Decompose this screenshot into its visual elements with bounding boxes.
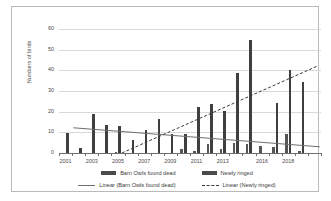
legend-label: Linear (Barn Owls found dead) xyxy=(99,182,175,188)
bar xyxy=(233,143,236,153)
bar xyxy=(132,140,135,153)
legend-item-newly-ringed[interactable]: Newly ringed xyxy=(202,170,253,176)
y-axis-tick-label: 50 xyxy=(28,47,54,52)
x-axis-tick-mark xyxy=(85,153,86,156)
x-axis-tick-mark xyxy=(125,153,126,156)
chart-frame: Numbers of birds 0102030405060 200120032… xyxy=(11,6,319,192)
x-axis-tick-label: 2011 xyxy=(191,158,203,164)
gridline xyxy=(59,29,321,30)
bar xyxy=(259,146,262,153)
x-axis-tick-label: 2013 xyxy=(217,158,229,164)
x-axis-tick-mark xyxy=(138,153,139,156)
x-axis-tick-mark xyxy=(151,153,152,156)
x-axis-tick-label: 2016 xyxy=(256,158,268,164)
y-axis-tick-label: 40 xyxy=(28,68,54,73)
bar xyxy=(92,114,95,153)
bar xyxy=(118,126,121,153)
bar xyxy=(236,73,239,153)
bar xyxy=(105,125,108,153)
gridline xyxy=(59,112,321,113)
y-axis-tick-label: 20 xyxy=(28,109,54,114)
bar-swatch-icon xyxy=(202,171,217,175)
x-axis-tick-label: 2003 xyxy=(86,158,98,164)
x-axis-tick-mark xyxy=(72,153,73,156)
gridline xyxy=(59,91,321,92)
legend-row-trendlines: Linear (Barn Owls found dead) Linear (Ne… xyxy=(23,179,331,191)
x-axis-tick-mark xyxy=(321,153,322,156)
bar xyxy=(289,70,292,153)
x-axis-tick-mark xyxy=(190,153,191,156)
x-axis-tick-mark xyxy=(256,153,257,156)
bar-swatch-icon xyxy=(101,171,116,175)
y-axis-tick-label: 0 xyxy=(28,150,54,155)
x-axis-tick-label: 2001 xyxy=(60,158,72,164)
bar xyxy=(66,133,69,153)
x-axis-tick-mark xyxy=(308,153,309,156)
bar xyxy=(285,134,288,153)
bar xyxy=(249,40,252,153)
bar xyxy=(246,144,249,153)
dashed-line-icon xyxy=(202,185,219,186)
plot-area xyxy=(59,29,321,153)
x-axis-tick-mark xyxy=(242,153,243,156)
x-axis-tick-label: 2007 xyxy=(138,158,150,164)
y-axis-tick-labels: 0102030405060 xyxy=(26,29,54,153)
bar xyxy=(276,103,279,153)
x-axis-tick-mark xyxy=(216,153,217,156)
bar xyxy=(223,111,226,153)
bar xyxy=(207,144,210,153)
x-axis-tick-mark xyxy=(59,153,60,156)
x-axis-tick-mark xyxy=(177,153,178,156)
x-axis-tick-mark xyxy=(203,153,204,156)
x-axis-tick-mark xyxy=(282,153,283,156)
gridline xyxy=(59,50,321,51)
bar xyxy=(197,107,200,153)
x-axis-tick-mark xyxy=(164,153,165,156)
x-axis-tick-mark xyxy=(98,153,99,156)
bar xyxy=(302,82,305,153)
solid-line-icon xyxy=(78,185,95,186)
bar xyxy=(210,104,213,153)
x-axis-tick-mark xyxy=(269,153,270,156)
x-axis-tick-label: 2005 xyxy=(112,158,124,164)
x-axis-tick-mark xyxy=(295,153,296,156)
legend-label: Linear (Newly ringed) xyxy=(223,182,276,188)
y-axis-tick-label: 10 xyxy=(28,130,54,135)
y-axis-tick-label: 30 xyxy=(28,88,54,93)
chart-legend: Barn Owls found dead Newly ringed Linear… xyxy=(23,167,331,191)
gridline xyxy=(59,70,321,71)
legend-row-series: Barn Owls found dead Newly ringed xyxy=(23,167,331,179)
legend-item-linear-newly-ringed[interactable]: Linear (Newly ringed) xyxy=(202,182,276,188)
bar xyxy=(184,134,187,153)
bar xyxy=(145,130,148,153)
gridline xyxy=(59,132,321,133)
x-axis-tick-mark xyxy=(229,153,230,156)
x-axis-tick-mark xyxy=(111,153,112,156)
legend-label: Newly ringed xyxy=(221,170,253,176)
y-axis-tick-label: 60 xyxy=(28,26,54,31)
legend-label: Barn Owls found dead xyxy=(120,170,175,176)
x-axis-tick-label: 2009 xyxy=(164,158,176,164)
legend-item-barn-owls-found-dead[interactable]: Barn Owls found dead xyxy=(101,170,175,176)
x-axis-tick-label: 2018 xyxy=(282,158,294,164)
bar xyxy=(171,134,174,153)
legend-item-linear-barn-owls-found-dead[interactable]: Linear (Barn Owls found dead) xyxy=(78,182,175,188)
bar xyxy=(158,119,161,153)
